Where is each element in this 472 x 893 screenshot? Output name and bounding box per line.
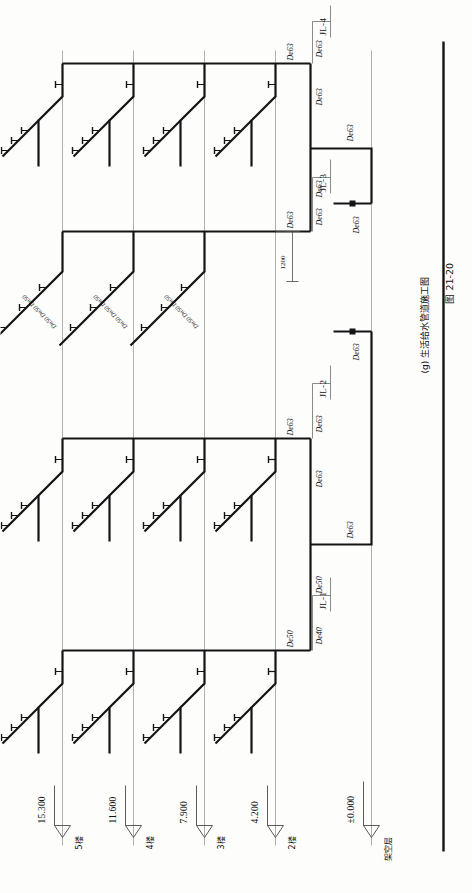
branch-jl4-l4 — [72, 63, 133, 166]
branch-jl4-l5 — [1, 63, 62, 166]
riser-tag-jl2: JL-2 — [317, 379, 327, 397]
floor-label-l0: 架空层 — [381, 836, 392, 860]
pipe-label-jl1-de40: De40 — [314, 627, 323, 644]
branch-jl1-l5 — [1, 650, 62, 753]
dimension-label-1200: 1200 — [278, 255, 286, 269]
pipe-label-branch-de63-c: De63 — [285, 43, 294, 60]
pipe-label-right-main-de63-b: De63 — [314, 88, 323, 105]
riser-jl4-group — [1, 5, 330, 166]
elevation-value-l3: 7.900 — [178, 801, 188, 823]
drawing-canvas: 15.300 5楼 11.600 4楼 7.900 3楼 4.200 2楼 ±0… — [0, 0, 472, 893]
pipe-label-branch-de63-a: De63 — [285, 418, 294, 435]
branch-jl1-l3 — [143, 650, 204, 753]
pipe-label-right-inlet-de63: De63 — [345, 124, 354, 141]
drawing-page: 15.300 5楼 11.600 4楼 7.900 3楼 4.200 2楼 ±0… — [0, 0, 472, 893]
elevation-marker-l5 — [54, 785, 70, 837]
floor-label-l3: 3楼 — [214, 836, 225, 849]
pipe-label-jl4-de63: De63 — [314, 40, 323, 57]
elevation-value-l4: 11.600 — [107, 796, 117, 823]
floor-label-l4: 4楼 — [143, 836, 154, 849]
pipe-label-branch-de50: De50 — [285, 630, 294, 647]
riser-tag-jl1: JL-1 — [317, 591, 327, 609]
left-service-drop — [310, 331, 371, 544]
branch-jl1-l2 — [214, 650, 275, 753]
floor-grid-lines — [62, 50, 371, 845]
pipe-label-left-service-de63: De63 — [351, 343, 360, 360]
elevation-markers — [54, 781, 379, 837]
pipe-label-left-main-de63: De63 — [314, 470, 323, 487]
branch-jl2-l5 — [1, 438, 62, 541]
floor-label-l2: 2楼 — [285, 836, 296, 849]
pipe-label-left-main-de50: De50 — [314, 576, 323, 593]
pipe-label-right-service-de63: De63 — [351, 216, 360, 233]
elevation-marker-l4 — [125, 785, 141, 837]
elevation-marker-l0 — [363, 781, 379, 837]
figure-number: 图 21-20 — [441, 262, 455, 303]
branch-jl2-l4 — [72, 438, 133, 541]
pipe-label-branch-de63-b: De63 — [285, 211, 294, 228]
pipe-label-jl3-de63: De63 — [314, 208, 323, 225]
elevation-value-l2: 4.200 — [249, 801, 259, 823]
branch-jl2-l3 — [143, 438, 204, 541]
inlet-node-right — [333, 200, 371, 206]
floor-label-l5: 5楼 — [72, 836, 83, 849]
pipe-label-right-main-de63-a: De63 — [314, 180, 323, 197]
elevation-value-l0: ±0.000 — [345, 795, 355, 823]
riser-jl2-group — [1, 365, 330, 541]
pipe-label-jl2-de63: De63 — [314, 415, 323, 432]
pipework-schematic-svg — [0, 0, 472, 893]
figure-caption: (g) 生活给水管道施工图 — [417, 276, 430, 373]
branch-jl1-l4 — [72, 650, 133, 753]
elevation-marker-l2 — [267, 785, 283, 837]
elevation-value-l5: 15.300 — [36, 796, 46, 823]
branch-jl4-l3 — [143, 63, 204, 166]
branch-jl4-l2 — [214, 63, 275, 166]
branch-jl2-l2 — [214, 438, 275, 541]
riser-jl1-group — [1, 577, 330, 753]
rotated-drawing-container: 15.300 5楼 11.600 4楼 7.900 3楼 4.200 2楼 ±0… — [0, 0, 472, 893]
pipe-label-left-inlet-de63: De63 — [345, 521, 354, 538]
inlet-node-left — [333, 328, 371, 334]
riser-tag-jl4: JL-4 — [317, 17, 327, 35]
elevation-marker-l3 — [196, 785, 212, 837]
